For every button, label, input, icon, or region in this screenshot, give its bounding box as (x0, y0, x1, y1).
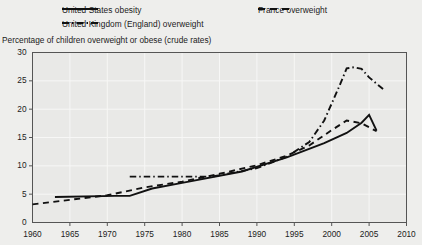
x-axis-tick-label: 1980 (166, 229, 198, 239)
y-axis-tick-label: 0 (0, 217, 27, 227)
y-axis-tick-label: 5 (0, 189, 27, 199)
x-axis-tick-label: 1995 (278, 229, 310, 239)
y-axis-tick-label: 20 (0, 104, 27, 114)
y-axis-tick-label: 10 (0, 160, 27, 170)
plot-area (0, 0, 422, 245)
x-axis-tick-label: 1985 (204, 229, 236, 239)
x-axis-tick-label: 1960 (17, 229, 49, 239)
x-axis-tick-label: 2010 (391, 229, 422, 239)
x-axis-tick-label: 2000 (316, 229, 348, 239)
x-axis-tick-label: 2005 (353, 229, 385, 239)
chart-figure: United States obesity United Kingdom (En… (0, 0, 422, 245)
y-axis-tick-label: 30 (0, 47, 27, 57)
x-axis-tick-label: 1970 (91, 229, 123, 239)
x-axis-tick-label: 1990 (241, 229, 273, 239)
x-axis-tick-label: 1965 (54, 229, 86, 239)
y-axis-tick-label: 15 (0, 132, 27, 142)
x-axis-tick-label: 1975 (129, 229, 161, 239)
y-axis-tick-label: 25 (0, 75, 27, 85)
